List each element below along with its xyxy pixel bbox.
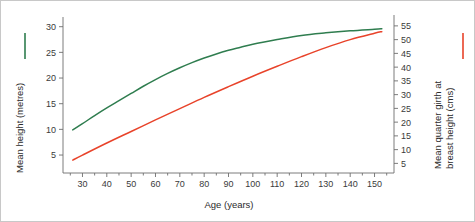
x-tick-label: 70 <box>175 179 185 189</box>
right-y-tick-label: 30 <box>401 90 411 100</box>
right-axis-title-line-1: Mean quarter girth at <box>432 80 443 169</box>
right-y-tick-label: 25 <box>401 104 411 114</box>
right-y-tick-label: 35 <box>401 76 411 86</box>
x-axis-title-group: Age (years) <box>204 199 253 210</box>
left-y-tick-label: 30 <box>46 22 56 32</box>
left-y-tick-label: 25 <box>46 48 56 58</box>
right-y-tick-label: 45 <box>401 49 411 59</box>
x-tick-label: 110 <box>270 179 284 189</box>
left-y-tick-label: 5 <box>51 150 56 160</box>
x-tick-label: 150 <box>367 179 382 189</box>
x-tick-label: 60 <box>150 179 160 189</box>
right-axis-title-line-2: breast height (cms) <box>444 88 455 169</box>
x-tick-label: 140 <box>343 179 358 189</box>
left-y-tick-label: 15 <box>46 99 56 109</box>
x-tick-label: 120 <box>294 179 309 189</box>
ticks-layer <box>59 26 398 177</box>
x-tick-label: 100 <box>245 179 260 189</box>
x-axis-title: Age (years) <box>204 199 253 210</box>
right-axis-title-group: Mean quarter girth at breast height (cms… <box>432 80 455 169</box>
x-tick-label: 90 <box>223 179 233 189</box>
chart-canvas: Mean height (metres) Mean quarter girth … <box>1 1 475 222</box>
x-tick-label: 40 <box>102 179 112 189</box>
right-y-tick-label: 10 <box>401 145 411 155</box>
x-tick-label: 50 <box>126 179 136 189</box>
chart-figure: Mean height (metres) Mean quarter girth … <box>0 0 475 222</box>
x-tick-label: 80 <box>199 179 209 189</box>
right-y-tick-label: 20 <box>401 118 411 128</box>
right-y-tick-label: 55 <box>401 21 411 31</box>
tick-labels-layer: 3040506070809010011012013014015051015202… <box>46 21 411 189</box>
left-axis-title-group: Mean height (metres) <box>14 83 25 173</box>
right-y-tick-label: 40 <box>401 63 411 73</box>
x-tick-label: 30 <box>77 179 87 189</box>
x-tick-label: 130 <box>318 179 333 189</box>
axes-layer <box>63 15 394 173</box>
left-y-tick-label: 10 <box>46 125 56 135</box>
left-y-tick-label: 20 <box>46 73 56 83</box>
right-y-tick-label: 50 <box>401 35 411 45</box>
right-y-tick-label: 5 <box>401 159 406 169</box>
left-axis-title: Mean height (metres) <box>14 83 25 173</box>
series-layer <box>73 29 382 160</box>
right-y-tick-label: 15 <box>401 131 411 141</box>
